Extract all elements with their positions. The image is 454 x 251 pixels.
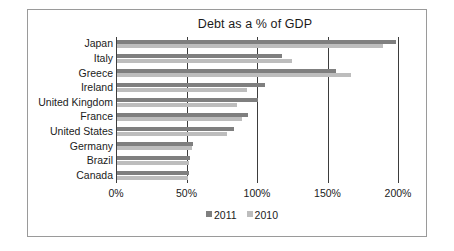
legend-label: 2010 xyxy=(255,209,278,221)
tick-label: 50% xyxy=(176,187,197,199)
legend-label: 2011 xyxy=(214,209,237,221)
bar-2011-brazil xyxy=(117,156,190,160)
bar-2011-greece xyxy=(117,69,336,73)
category-label: Japan xyxy=(84,38,113,49)
chart-legend: 20112010 xyxy=(28,208,426,221)
chart-row xyxy=(116,110,398,125)
bar-2010-greece xyxy=(117,73,351,77)
value-axis-tick-labels: 0%50%100%150%200% xyxy=(116,187,398,201)
bar-2011-ireland xyxy=(117,83,265,87)
category-axis-labels: JapanItalyGreeceIrelandUnited KingdomFra… xyxy=(28,37,113,183)
legend-entries: 20112010 xyxy=(171,208,283,221)
chart-title: Debt as a % of GDP xyxy=(28,17,426,31)
bar-2010-brazil xyxy=(117,161,189,165)
plot-area xyxy=(116,37,398,183)
tick-label: 100% xyxy=(244,187,271,199)
category-label: Germany xyxy=(70,141,113,152)
bar-2010-italy xyxy=(117,59,292,63)
bar-2010-france xyxy=(117,117,242,121)
legend-entry-2010[interactable]: 2010 xyxy=(247,208,278,221)
bar-2010-united-states xyxy=(117,132,227,136)
bar-2010-japan xyxy=(117,44,383,48)
bar-2011-germany xyxy=(117,142,193,146)
chart-row xyxy=(116,52,398,67)
bar-2010-united-kingdom xyxy=(117,103,237,107)
bar-2011-japan xyxy=(117,40,396,44)
bar-2011-canada xyxy=(117,171,189,175)
legend-swatch-icon xyxy=(247,211,253,217)
tick-label: 200% xyxy=(385,187,412,199)
bar-2011-italy xyxy=(117,54,282,58)
gridline xyxy=(398,37,399,183)
tick-label: 150% xyxy=(314,187,341,199)
legend-entry-2011[interactable]: 2011 xyxy=(206,208,237,221)
bar-2010-ireland xyxy=(117,88,247,92)
chart-row xyxy=(116,168,398,183)
category-label: France xyxy=(80,111,113,122)
chart-row xyxy=(116,95,398,110)
chart-title-text: Debt as a % of GDP xyxy=(142,17,312,31)
chart-row xyxy=(116,139,398,154)
chart-container: Debt as a % of GDP JapanItalyGreeceIrela… xyxy=(27,9,427,237)
bar-2010-germany xyxy=(117,146,192,150)
category-label: United Kingdom xyxy=(38,97,113,108)
chart-row xyxy=(116,37,398,52)
chart-row xyxy=(116,154,398,169)
bar-2010-canada xyxy=(117,176,188,180)
bar-2011-united-kingdom xyxy=(117,98,258,102)
category-label: Ireland xyxy=(81,82,113,93)
category-label: United States xyxy=(50,126,113,137)
category-label: Greece xyxy=(79,68,113,79)
category-label: Italy xyxy=(94,53,113,64)
bar-2011-united-states xyxy=(117,127,234,131)
legend-swatch-icon xyxy=(206,211,212,217)
category-label: Brazil xyxy=(87,155,113,166)
chart-row xyxy=(116,81,398,96)
tick-label: 0% xyxy=(108,187,123,199)
category-label: Canada xyxy=(76,170,113,181)
chart-row xyxy=(116,125,398,140)
chart-row xyxy=(116,66,398,81)
bar-2011-france xyxy=(117,113,248,117)
